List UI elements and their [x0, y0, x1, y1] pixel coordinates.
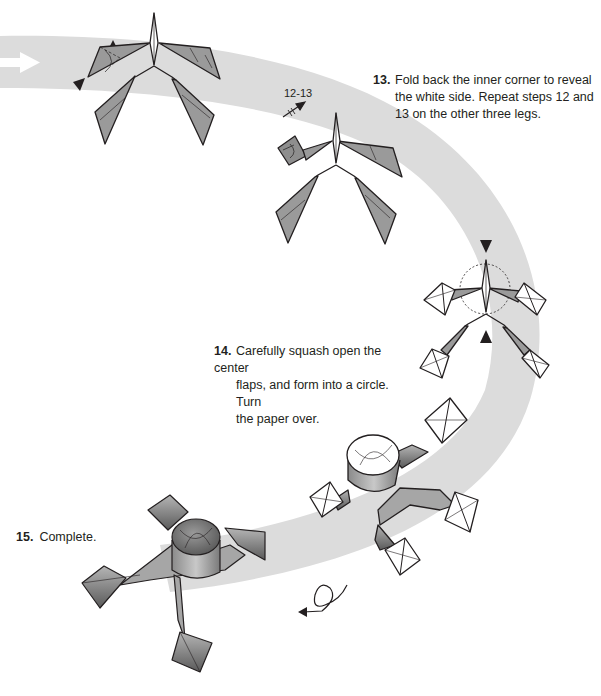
step-number: 15. [16, 529, 33, 546]
step-number: 14. [214, 343, 232, 360]
step-14-line-2: flaps, and form into a circle. Turn [214, 377, 414, 411]
repeat-step-label: 12-13 [284, 87, 312, 99]
step-14-line-3: the paper over. [214, 411, 414, 428]
step-14-line-1: 14.Carefully squash open the center [214, 343, 414, 377]
turn-over-loop-arrow-icon [298, 585, 347, 617]
step-number: 13. [373, 72, 391, 89]
step-13-line-1: 13.Fold back the inner corner to reveal [373, 72, 601, 89]
step-15-instructions: 15.Complete. [16, 529, 96, 546]
step-13-line-3: 13 on the other three legs. [373, 106, 601, 123]
step-15-line-1: Complete. [39, 530, 96, 544]
step-13-line-2: the white side. Repeat steps 12 and [373, 89, 601, 106]
step-13-instructions: 13.Fold back the inner corner to reveal … [373, 72, 601, 123]
step-14-instructions: 14.Carefully squash open the center flap… [214, 343, 414, 428]
